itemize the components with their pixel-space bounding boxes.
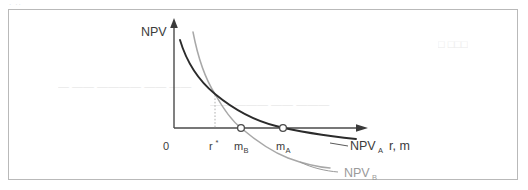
irr-b-label: m xyxy=(234,140,243,152)
curve-a-subscript: A xyxy=(378,146,383,155)
crossover-star: * xyxy=(216,138,219,147)
y-axis-arrowhead xyxy=(170,18,178,28)
origin-label: 0 xyxy=(163,140,169,152)
crossover-label: r xyxy=(209,140,213,152)
marker-irr-a xyxy=(280,125,287,132)
x-axis-label: r, m xyxy=(389,139,410,153)
leader-npv-a xyxy=(330,143,348,146)
irr-a-subscript: A xyxy=(286,146,291,155)
irr-b-subscript: B xyxy=(244,146,249,155)
curve-b-label: NPV xyxy=(344,166,370,180)
curve-b-subscript: B xyxy=(372,173,377,182)
x-axis-arrowhead xyxy=(356,124,368,132)
curve-npv-b xyxy=(193,32,330,168)
curve-a-label: NPV xyxy=(350,139,376,153)
curve-npv-a xyxy=(180,40,356,139)
npv-profile-chart: NPV 0 r * m B m A NPV A r, m NPV B xyxy=(0,0,528,190)
irr-a-label: m xyxy=(276,140,285,152)
y-axis-label: NPV xyxy=(141,25,167,39)
figure-root: · ·· □ □□□ — —— ———— —— —— —— ——— —— ———… xyxy=(0,0,528,190)
marker-irr-b xyxy=(238,125,245,132)
